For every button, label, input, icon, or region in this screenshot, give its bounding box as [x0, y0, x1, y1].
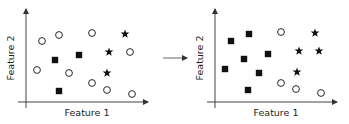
- square-marker: [241, 56, 247, 62]
- circle-marker: [129, 91, 136, 98]
- circle-marker: [66, 70, 73, 77]
- star-marker: [295, 46, 304, 54]
- star-marker: [311, 28, 320, 36]
- square-marker: [228, 38, 234, 44]
- circle-marker: [104, 87, 111, 94]
- square-marker: [265, 51, 271, 57]
- square-marker: [76, 52, 82, 58]
- circle-marker: [56, 32, 63, 39]
- square-marker: [52, 57, 58, 63]
- figure-canvas: Feature 1 Feature 2 Feature 1 Feature 2: [0, 0, 349, 124]
- circle-marker: [89, 30, 96, 37]
- star-marker: [121, 29, 130, 37]
- circle-marker: [89, 80, 96, 87]
- left-y-axis-label: Feature 2: [5, 36, 16, 81]
- square-marker: [56, 88, 62, 94]
- circle-marker: [278, 29, 285, 36]
- square-marker: [245, 87, 251, 93]
- right-y-axis-label: Feature 2: [194, 36, 205, 81]
- circle-marker: [34, 67, 41, 74]
- right-data-points: [222, 28, 325, 96]
- left-data-points: [34, 29, 136, 97]
- circle-marker: [39, 38, 46, 45]
- square-marker: [246, 31, 252, 37]
- left-scatter-plot: Feature 1 Feature 2: [5, 9, 148, 118]
- right-scatter-plot: Feature 1 Feature 2: [194, 9, 337, 118]
- square-marker: [256, 70, 262, 76]
- star-marker: [105, 47, 114, 55]
- star-marker: [103, 68, 112, 76]
- circle-marker: [318, 90, 325, 97]
- square-marker: [222, 66, 228, 72]
- star-marker: [315, 46, 324, 54]
- circle-marker: [293, 86, 300, 93]
- circle-marker: [127, 49, 134, 56]
- left-x-axis-label: Feature 1: [65, 107, 110, 118]
- right-x-axis-label: Feature 1: [254, 107, 299, 118]
- star-marker: [293, 67, 302, 75]
- circle-marker: [278, 80, 285, 87]
